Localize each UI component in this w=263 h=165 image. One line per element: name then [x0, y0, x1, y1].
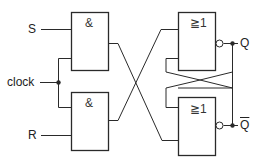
- circuit-wiring: [0, 0, 263, 165]
- clock-junction-dot: [56, 80, 60, 84]
- inversion-bubble-top: [216, 40, 223, 47]
- nor-top-symbol: ≧1: [190, 17, 207, 29]
- and-bottom-symbol: &: [85, 97, 93, 109]
- q-junction-dot: [230, 41, 234, 45]
- inversion-bubble-bottom: [216, 122, 223, 129]
- q-output-label: Q: [240, 37, 249, 49]
- qbar-junction-dot: [230, 123, 234, 127]
- and-bottom-output: [109, 30, 179, 121]
- qbar-output-label: Q: [240, 119, 249, 131]
- r-input-label: R: [28, 129, 37, 141]
- nor-bottom-symbol: ≧1: [190, 103, 207, 115]
- flip-flop-diagram: S clock R & & ≧1 ≧1 Q Q: [0, 0, 263, 165]
- clock-input-label: clock: [7, 76, 34, 88]
- and-top-symbol: &: [85, 17, 93, 29]
- feedback-cross-up: [166, 59, 233, 81]
- s-input-label: S: [28, 23, 36, 35]
